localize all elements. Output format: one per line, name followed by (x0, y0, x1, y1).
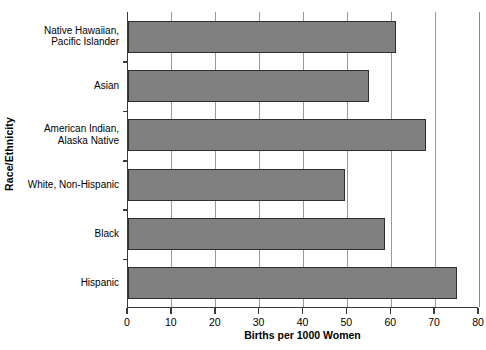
bar-chart: Race/Ethnicity Native Hawaiian,Pacific I… (0, 0, 486, 350)
x-axis-tick (390, 308, 392, 314)
gridline (435, 12, 436, 307)
x-axis-tick-label: 30 (239, 316, 279, 328)
category-label: American Indian,Alaska Native (18, 123, 119, 146)
category-label-line: Alaska Native (18, 135, 119, 147)
gridline (391, 12, 392, 307)
x-axis-ticks: 01020304050607080 (127, 308, 478, 348)
y-axis-tick (123, 209, 128, 211)
x-axis-tick-label: 70 (414, 316, 454, 328)
gridline (347, 12, 348, 307)
x-axis-tick-label: 50 (326, 316, 366, 328)
x-axis-tick-label: 10 (151, 316, 191, 328)
category-label-line: Asian (94, 80, 119, 91)
category-label-line: Hispanic (81, 277, 119, 288)
gridline (479, 12, 480, 307)
x-axis-tick (477, 308, 479, 314)
x-axis-tick-label: 80 (458, 316, 486, 328)
category-label: White, Non-Hispanic (18, 179, 119, 191)
category-labels: Native Hawaiian,Pacific IslanderAsianAme… (18, 12, 123, 308)
x-axis-tick-label: 0 (107, 316, 147, 328)
category-label: Hispanic (18, 277, 119, 289)
plot-area (127, 12, 478, 308)
category-label: Asian (18, 80, 119, 92)
y-axis-tick (123, 61, 128, 63)
x-axis-tick (214, 308, 216, 314)
bar (128, 70, 369, 102)
x-axis-tick (302, 308, 304, 314)
category-label-line: American Indian, (44, 123, 119, 134)
gridline (303, 12, 304, 307)
category-label: Native Hawaiian,Pacific Islander (18, 25, 119, 48)
x-axis-tick (170, 308, 172, 314)
bar (128, 169, 345, 201)
bar (128, 119, 426, 151)
category-label-line: Pacific Islander (18, 36, 119, 48)
category-label-line: White, Non-Hispanic (28, 179, 119, 190)
x-axis-tick (126, 308, 128, 314)
gridline (171, 12, 172, 307)
x-axis-tick (433, 308, 435, 314)
x-axis-tick (258, 308, 260, 314)
x-axis-tick-label: 40 (283, 316, 323, 328)
bar (128, 267, 457, 299)
x-axis-tick (346, 308, 348, 314)
x-axis-title: Births per 1000 Women (127, 329, 478, 341)
gridline (259, 12, 260, 307)
y-axis-tick (123, 160, 128, 162)
y-axis-title: Race/Ethnicity (0, 0, 18, 308)
bar (128, 21, 396, 53)
gridline (215, 12, 216, 307)
x-axis-tick-label: 20 (195, 316, 235, 328)
y-axis-tick (123, 111, 128, 113)
category-label-line: Black (95, 228, 119, 239)
bar (128, 218, 385, 250)
category-label: Black (18, 228, 119, 240)
category-label-line: Native Hawaiian, (44, 25, 119, 36)
y-axis-title-text: Race/Ethnicity (3, 117, 15, 191)
x-axis-tick-label: 60 (370, 316, 410, 328)
y-axis-tick (123, 259, 128, 261)
